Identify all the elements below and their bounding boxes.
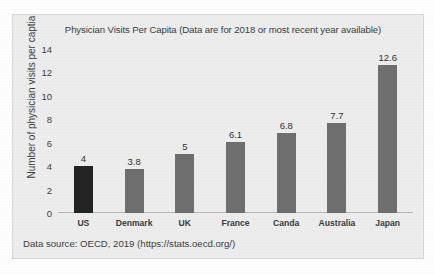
bar-group-france: 6.1France xyxy=(210,49,261,213)
y-tick-label: 6 xyxy=(47,137,52,148)
y-tick-label: 2 xyxy=(47,184,52,195)
chart-title: Physician Visits Per Capita (Data are fo… xyxy=(47,23,399,36)
plot-area: 14121086420 4US3.8Denmark5UK6.1France6.8… xyxy=(58,49,413,213)
bar-series: 4US3.8Denmark5UK6.1France6.8Canda7.7Aust… xyxy=(58,49,413,213)
bar-us xyxy=(74,166,93,213)
x-tick-label: Japan xyxy=(362,218,413,228)
bar-group-japan: 12.6Japan xyxy=(362,49,413,213)
y-tick-label: 8 xyxy=(47,114,52,125)
chart-container: Physician Visits Per Capita (Data are fo… xyxy=(12,14,424,259)
x-tick-label: US xyxy=(58,218,109,228)
x-tick-label: UK xyxy=(159,218,210,228)
x-tick-label: France xyxy=(210,218,261,228)
bar-japan xyxy=(378,65,397,213)
bar-group-us: 4US xyxy=(58,49,109,213)
source-note: Data source: OECD, 2019 (https://stats.o… xyxy=(23,238,235,249)
bar-australia xyxy=(327,123,346,213)
y-tick-label: 14 xyxy=(41,44,52,55)
bar-denmark xyxy=(125,169,144,214)
bar-value-label: 4 xyxy=(58,153,109,164)
bar-canda xyxy=(277,133,296,213)
bar-group-denmark: 3.8Denmark xyxy=(109,49,160,213)
x-tick-label: Denmark xyxy=(109,218,160,228)
bar-value-label: 3.8 xyxy=(109,156,160,167)
scanned-page: Physician Visits Per Capita (Data are fo… xyxy=(0,0,434,274)
x-tick-label: Canda xyxy=(261,218,312,228)
y-tick-label: 4 xyxy=(47,161,52,172)
bar-group-uk: 5UK xyxy=(159,49,210,213)
bar-uk xyxy=(175,154,194,213)
bar-france xyxy=(226,142,245,213)
y-tick-label: 10 xyxy=(41,90,52,101)
bar-value-label: 6.8 xyxy=(261,120,312,131)
y-tick-label: 0 xyxy=(47,208,52,219)
bar-value-label: 12.6 xyxy=(362,52,413,63)
bar-value-label: 5 xyxy=(159,141,210,152)
bar-group-australia: 7.7Australia xyxy=(312,49,363,213)
bar-group-canda: 6.8Canda xyxy=(261,49,312,213)
bar-value-label: 6.1 xyxy=(210,129,261,140)
y-tick-label: 12 xyxy=(41,67,52,78)
bar-value-label: 7.7 xyxy=(312,110,363,121)
x-tick-label: Australia xyxy=(312,218,363,228)
y-axis-title: Number of physician visits per captia xyxy=(26,19,37,179)
